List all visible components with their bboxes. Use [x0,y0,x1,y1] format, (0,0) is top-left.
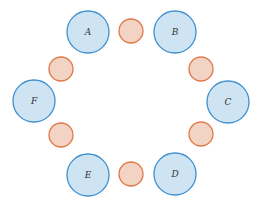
node-d-label: D [170,169,178,179]
node-f: F [13,80,55,122]
small-node-top-left [49,57,73,81]
node-f-label: F [30,96,38,106]
node-a: A [67,11,109,53]
node-e-label: E [84,170,92,180]
small-node-top-right [189,57,213,81]
small-node-bottom-right [189,122,213,146]
small-node-bottom-left [49,123,73,147]
node-e: E [67,154,109,196]
diagram-canvas: A B C D E F [0,0,260,205]
node-b-label: B [171,27,179,37]
small-node-top [119,19,143,43]
node-c: C [207,81,249,123]
node-a-label: A [84,27,92,37]
node-d: D [154,153,196,195]
node-c-label: C [225,97,232,107]
node-b: B [154,11,196,53]
ring-diagram: A B C D E F [0,0,260,205]
small-node-bottom [119,162,143,186]
